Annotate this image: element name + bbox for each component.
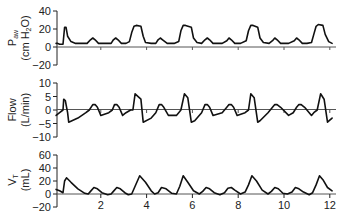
x-axis: 24681012: [98, 194, 336, 211]
x-tick-label: 8: [235, 199, 241, 211]
x-tick-label: 4: [144, 199, 150, 211]
y-tick-label: −10: [32, 131, 51, 143]
flow-axis-title: Flow: [6, 98, 18, 121]
y-tick-label: 20: [39, 175, 51, 187]
x-tick-label: 2: [98, 199, 104, 211]
y-tick-label: 0: [45, 188, 51, 200]
chart-svg: Paw (cm H2O) 40200−20 Flow (L/min) 1050−…: [0, 0, 338, 215]
y-tick-label: 0: [45, 41, 51, 53]
flow-axis-units: (L/min): [19, 93, 31, 127]
flow-y-axis: 1050−5−10: [32, 77, 57, 143]
x-tick-label: 6: [189, 199, 195, 211]
vt-trace: [56, 176, 332, 195]
vt-y-axis: 6040200−20: [32, 149, 57, 213]
paw-trace: [56, 25, 332, 45]
paw-y-axis: 40200−20: [32, 5, 57, 71]
y-tick-label: 5: [45, 91, 51, 103]
y-tick-label: 0: [45, 104, 51, 116]
y-tick-label: 40: [39, 162, 51, 174]
flow-trace: [56, 94, 332, 122]
ventilator-waveform-figure: Paw (cm H2O) 40200−20 Flow (L/min) 1050−…: [0, 0, 338, 215]
y-tick-label: 40: [39, 5, 51, 17]
paw-panel: Paw (cm H2O) 40200−20: [6, 5, 336, 71]
vt-axis-units: (mL): [19, 169, 31, 192]
y-tick-label: 10: [39, 77, 51, 89]
y-tick-label: −20: [32, 59, 51, 71]
paw-axis-title: Paw: [6, 29, 19, 46]
x-tick-label: 10: [278, 199, 290, 211]
x-tick-label: 12: [324, 199, 336, 211]
paw-axis-units: (cm H2O): [19, 15, 32, 60]
flow-panel: Flow (L/min) 1050−5−10: [6, 77, 336, 143]
vt-panel: VT (mL) 6040200−20 24681012: [6, 149, 336, 213]
y-tick-label: 20: [39, 23, 51, 35]
y-tick-label: −20: [32, 201, 51, 213]
vt-axis-title: VT: [6, 173, 19, 185]
y-tick-label: −5: [38, 118, 51, 130]
y-tick-label: 60: [39, 149, 51, 161]
